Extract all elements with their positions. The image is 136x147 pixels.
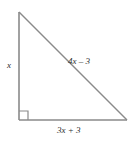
hypotenuse-line — [19, 12, 127, 120]
right-triangle-diagram: x 4x – 3 3x + 3 — [0, 0, 136, 147]
vertical-leg-label: x — [7, 61, 11, 70]
horizontal-leg-label: 3x + 3 — [57, 126, 81, 135]
hypotenuse-label: 4x – 3 — [68, 57, 90, 66]
right-angle-marker-icon — [19, 111, 28, 120]
